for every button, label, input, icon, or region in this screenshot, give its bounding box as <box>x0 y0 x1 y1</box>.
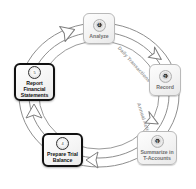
node-record-label: Record <box>154 84 176 90</box>
step-badge-3-icon: 3 <box>151 135 164 148</box>
node-analyze[interactable]: 1 Analyze <box>83 13 115 44</box>
node-trial-balance-label: Prepare Trial Balance <box>44 151 81 163</box>
step-badge-1-icon: 1 <box>93 19 106 32</box>
arrow-to-analyze-icon <box>60 22 78 41</box>
node-report-label: Report Financial Statements <box>16 80 53 98</box>
step-badge-2-icon: 2 <box>159 70 172 83</box>
node-summarize-label: Summarize in T-Accounts <box>138 149 176 161</box>
node-analyze-label: Analyze <box>87 33 110 39</box>
arrow-to-report-icon <box>26 104 42 118</box>
node-prepare-trial-balance[interactable]: 4 Prepare Trial Balance <box>42 133 83 167</box>
arrow-to-trial-balance-icon <box>86 152 98 168</box>
node-report-financial-statements[interactable]: 5 Report Financial Statements <box>14 63 55 101</box>
step-badge-4-icon: 4 <box>56 137 69 150</box>
step-badge-5-icon: 5 <box>28 66 41 79</box>
arrow-to-record-icon <box>148 46 165 62</box>
node-record[interactable]: 2 Record <box>149 64 181 96</box>
node-summarize-in-t-accounts[interactable]: 3 Summarize in T-Accounts <box>137 131 177 165</box>
